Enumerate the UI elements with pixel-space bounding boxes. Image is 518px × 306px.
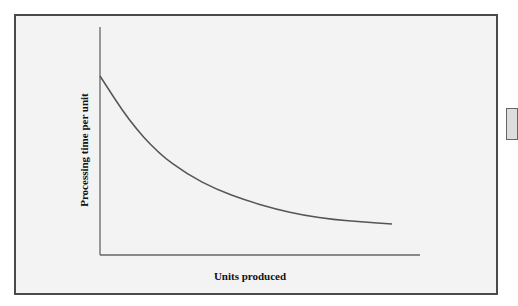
x-axis-label: Units produced	[214, 270, 286, 282]
learning-curve	[100, 76, 392, 224]
y-axis-label: Processing time per unit	[78, 93, 90, 207]
